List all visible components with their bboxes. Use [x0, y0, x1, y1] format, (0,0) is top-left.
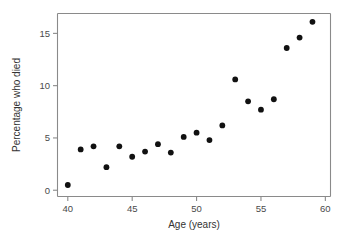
- data-point: [155, 141, 161, 147]
- x-tick-label-60: 60: [320, 203, 331, 214]
- scatter-plot-figure: 0510154045505560Age (years)Percentage wh…: [0, 0, 348, 234]
- x-axis-title: Age (years): [168, 219, 220, 230]
- y-tick-label-10: 10: [39, 80, 50, 91]
- data-point: [116, 143, 122, 149]
- data-point-group: [65, 19, 315, 188]
- data-point: [232, 76, 238, 82]
- data-point: [129, 154, 135, 160]
- y-axis-title: Percentage who died: [11, 58, 22, 152]
- data-point: [104, 164, 110, 170]
- x-tick-label-55: 55: [256, 203, 267, 214]
- data-point: [284, 45, 290, 51]
- x-tick-label-50: 50: [191, 203, 202, 214]
- data-point: [168, 150, 174, 156]
- data-point: [219, 122, 225, 128]
- data-point: [181, 134, 187, 140]
- x-tick-label-45: 45: [127, 203, 138, 214]
- plot-canvas: 0510154045505560Age (years)Percentage wh…: [0, 0, 348, 234]
- y-tick-label-15: 15: [39, 28, 50, 39]
- data-point: [245, 98, 251, 104]
- data-point: [271, 96, 277, 102]
- y-tick-label-5: 5: [45, 132, 50, 143]
- y-tick-label-0: 0: [45, 185, 50, 196]
- data-point: [258, 107, 264, 113]
- data-point: [142, 149, 148, 155]
- x-tick-label-40: 40: [63, 203, 74, 214]
- data-point: [194, 130, 200, 136]
- data-point: [78, 147, 84, 153]
- data-point: [65, 182, 71, 188]
- data-point: [310, 19, 316, 25]
- data-point: [207, 137, 213, 143]
- data-point: [91, 143, 97, 149]
- data-point: [297, 35, 303, 41]
